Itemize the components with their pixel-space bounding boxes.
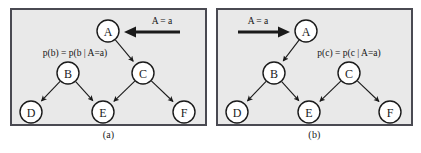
node-label-A: A: [104, 25, 113, 39]
node-E[interactable]: E: [92, 101, 114, 123]
node-label-E: E: [99, 106, 106, 120]
panel-a-wrapper: ABCDEF p(b) = p(b | A=a) A = a (a): [8, 8, 209, 140]
edge-B-to-D: [41, 81, 60, 101]
node-E[interactable]: E: [298, 101, 320, 123]
edge-C-to-E: [114, 81, 135, 101]
edge-B-to-E: [76, 82, 93, 101]
evidence-arrow-b: [238, 26, 290, 37]
edge-C-to-E: [320, 81, 341, 101]
nodes-group-a: ABCDEF: [20, 20, 195, 123]
edge-A-to-B: [283, 40, 299, 61]
edge-C-to-F: [357, 81, 379, 102]
edge-B-to-E: [282, 82, 299, 101]
node-F[interactable]: F: [379, 101, 401, 123]
bayesian-network-diagram-a: ABCDEF p(b) = p(b | A=a) A = a: [12, 10, 205, 124]
edge-A-to-C: [115, 40, 133, 61]
node-label-F: F: [181, 106, 188, 120]
node-label-B: B: [270, 67, 278, 81]
figure-container: ABCDEF p(b) = p(b | A=a) A = a (a) ABCD: [0, 0, 421, 153]
panel-a-caption: (a): [103, 129, 115, 140]
node-label-D: D: [27, 106, 36, 120]
node-C[interactable]: C: [338, 62, 360, 84]
evidence-arrow-a: [124, 26, 180, 37]
node-label-F: F: [387, 106, 394, 120]
panel-b: ABCDEF p(c) = p(c | A=a) A = a: [216, 8, 413, 126]
node-label-A: A: [302, 25, 311, 39]
node-label-E: E: [305, 106, 312, 120]
evidence-label-b: A = a: [248, 16, 269, 26]
panel-b-caption: (b): [308, 129, 320, 140]
panel-b-wrapper: ABCDEF p(c) = p(c | A=a) A = a (b): [214, 8, 415, 140]
node-label-D: D: [233, 106, 242, 120]
node-F[interactable]: F: [173, 101, 195, 123]
node-B[interactable]: B: [263, 62, 285, 84]
node-label-B: B: [64, 67, 72, 81]
node-label-C: C: [345, 67, 353, 81]
edge-B-to-D: [247, 81, 266, 101]
node-C[interactable]: C: [132, 62, 154, 84]
node-D[interactable]: D: [20, 101, 42, 123]
evidence-label-a: A = a: [152, 16, 173, 26]
node-D[interactable]: D: [226, 101, 248, 123]
probability-label-a: p(b) = p(b | A=a): [43, 48, 107, 59]
bayesian-network-diagram-b: ABCDEF p(c) = p(c | A=a) A = a: [218, 10, 411, 124]
node-A[interactable]: A: [295, 20, 317, 42]
panel-a: ABCDEF p(b) = p(b | A=a) A = a: [10, 8, 207, 126]
probability-label-b: p(c) = p(c | A=a): [317, 48, 380, 59]
edge-C-to-F: [151, 81, 173, 102]
node-label-C: C: [139, 67, 147, 81]
node-B[interactable]: B: [57, 62, 79, 84]
node-A[interactable]: A: [97, 20, 119, 42]
nodes-group-b: ABCDEF: [226, 20, 401, 123]
